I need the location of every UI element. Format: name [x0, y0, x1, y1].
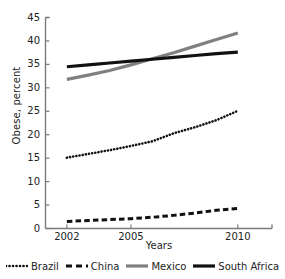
legend-label: China: [91, 261, 120, 272]
legend-label: South Africa: [218, 261, 279, 272]
line-chart-figure: 051015202530354045 200220052010 Obese, p…: [0, 0, 285, 279]
chart-legend: BrazilChinaMexicoSouth Africa: [0, 256, 285, 276]
legend-item-south-africa[interactable]: South Africa: [193, 261, 279, 272]
legend-item-mexico[interactable]: Mexico: [126, 261, 186, 272]
legend-swatch-dotted-icon: [6, 261, 28, 271]
x-axis-title: Years: [45, 240, 273, 251]
legend-label: Brazil: [31, 261, 59, 272]
legend-item-brazil[interactable]: Brazil: [6, 261, 59, 272]
legend-swatch-solid-icon: [126, 261, 148, 271]
legend-label: Mexico: [151, 261, 186, 272]
x-tick-labels: 200220052010: [0, 0, 285, 279]
legend-swatch-dashed-icon: [66, 261, 88, 271]
legend-swatch-solid-icon: [193, 261, 215, 271]
y-axis-title: Obese, percent: [11, 46, 22, 166]
legend-item-china[interactable]: China: [66, 261, 120, 272]
